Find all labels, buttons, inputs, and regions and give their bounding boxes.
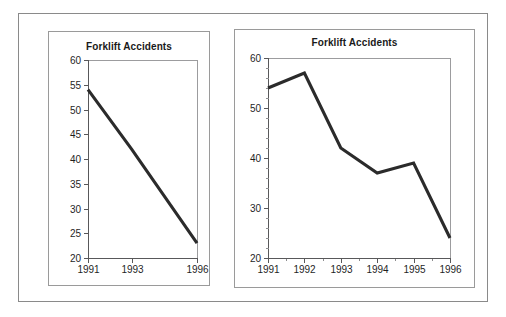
y-axis-tick-label: 40: [70, 154, 82, 165]
x-axis-tick-label: 1996: [439, 264, 462, 275]
x-axis-tick-label: 1993: [330, 264, 353, 275]
chart-panel-right: Forklift Accidents 605040302019911992199…: [234, 29, 475, 288]
y-axis-tick-label: 25: [70, 228, 82, 239]
y-axis-tick-label: 40: [250, 153, 262, 164]
y-axis-tick-label: 45: [70, 129, 82, 140]
y-axis-tick-label: 50: [70, 105, 82, 116]
figure-outer-frame: Forklift Accidents 605550454035302520199…: [18, 13, 488, 302]
y-axis-tick-label: 20: [70, 253, 82, 264]
line-chart-left: 605550454035302520199119931996: [49, 32, 211, 287]
y-axis-tick-label: 55: [70, 80, 82, 91]
line-chart-right: 6050403020199119921993199419951996: [235, 30, 476, 289]
y-axis-tick-label: 20: [250, 253, 262, 264]
chart-panel-left: Forklift Accidents 605550454035302520199…: [48, 31, 210, 286]
y-axis-tick-label: 60: [250, 53, 262, 64]
x-axis-tick-label: 1991: [77, 264, 100, 275]
y-axis-tick-label: 30: [250, 203, 262, 214]
data-series-line: [268, 73, 450, 238]
y-axis-tick-label: 60: [70, 55, 82, 66]
y-axis-tick-label: 30: [70, 204, 82, 215]
x-axis-tick-label: 1994: [366, 264, 389, 275]
x-axis-tick-label: 1992: [293, 264, 316, 275]
data-series-line: [88, 90, 197, 243]
x-axis-tick-label: 1995: [403, 264, 426, 275]
x-axis-tick-label: 1991: [257, 264, 280, 275]
plot-area-border: [89, 61, 198, 259]
x-axis-tick-label: 1996: [186, 264, 209, 275]
plot-area-border: [269, 59, 451, 259]
y-axis-tick-label: 35: [70, 179, 82, 190]
x-axis-tick-label: 1993: [121, 264, 144, 275]
y-axis-tick-label: 50: [250, 103, 262, 114]
